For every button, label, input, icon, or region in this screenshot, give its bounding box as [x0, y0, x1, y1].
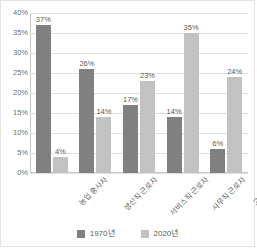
x-axis: 농업 종사자생산직 근로자서비스직 근로자사무직 근로자고급 기술자 — [30, 175, 248, 219]
y-axis: 40%35%30%25%20%15%10%5%0% — [1, 13, 28, 173]
bar-value-label: 26% — [79, 59, 94, 68]
bar-column: 14% — [167, 13, 182, 173]
bar-value-label: 23% — [140, 71, 155, 80]
bar-group: 6%24% — [204, 13, 248, 173]
bar-value-label: 24% — [227, 67, 242, 76]
bar-value-label: 37% — [36, 15, 51, 24]
bar-value-label: 14% — [167, 107, 182, 116]
bar-chart: 40%35%30%25%20%15%10%5%0% 37%4%26%14%17%… — [0, 0, 255, 247]
bar[interactable] — [96, 117, 111, 173]
legend-item[interactable]: 1970년 — [77, 229, 115, 238]
bar-value-label: 14% — [96, 107, 111, 116]
bar-column: 26% — [79, 13, 94, 173]
legend-label: 1970년 — [90, 229, 115, 238]
bar-value-label: 17% — [123, 95, 138, 104]
y-axis-tick-label: 25% — [2, 69, 28, 77]
x-axis-tick-label: 생산직 근로자 — [122, 175, 160, 213]
bar-column: 14% — [96, 13, 111, 173]
bar[interactable] — [184, 33, 199, 173]
y-axis-tick-label: 35% — [2, 29, 28, 37]
x-axis-tick-label: 농업 종사자 — [77, 175, 110, 208]
bar-value-label: 35% — [184, 23, 199, 32]
bar[interactable] — [79, 69, 94, 173]
x-axis-tick-label: 고급 기술자 — [251, 175, 257, 208]
bar-group: 26%14% — [74, 13, 118, 173]
bar[interactable] — [123, 105, 138, 173]
x-axis-tick-label: 사무직 근로자 — [210, 175, 248, 213]
bar-group: 17%23% — [117, 13, 161, 173]
y-axis-tick-label: 40% — [2, 9, 28, 17]
bar[interactable] — [227, 77, 242, 173]
bar-column: 6% — [210, 13, 225, 173]
chart-legend: 1970년2020년 — [1, 229, 254, 238]
bar-value-label: 4% — [55, 147, 66, 156]
bar-column: 4% — [53, 13, 68, 173]
y-axis-tick-label: 20% — [2, 89, 28, 97]
bar-column: 23% — [140, 13, 155, 173]
legend-label: 2020년 — [154, 229, 179, 238]
y-axis-tick-label: 15% — [2, 109, 28, 117]
bar[interactable] — [140, 81, 155, 173]
bar-group: 14%35% — [161, 13, 205, 173]
bar[interactable] — [210, 149, 225, 173]
bar-column: 37% — [36, 13, 51, 173]
bar-value-label: 6% — [212, 139, 223, 148]
legend-swatch-icon — [77, 230, 85, 238]
y-axis-tick-label: 5% — [2, 149, 28, 157]
bar-column: 24% — [227, 13, 242, 173]
bars-layer: 37%4%26%14%17%23%14%35%6%24% — [30, 13, 248, 173]
bar-column: 35% — [184, 13, 199, 173]
bar-group: 37%4% — [30, 13, 74, 173]
legend-item[interactable]: 2020년 — [141, 229, 179, 238]
bar[interactable] — [36, 25, 51, 173]
legend-swatch-icon — [141, 230, 149, 238]
x-axis-tick-label: 서비스직 근로자 — [168, 175, 210, 217]
bar[interactable] — [167, 117, 182, 173]
y-axis-tick-label: 0% — [2, 169, 28, 177]
y-axis-tick-label: 10% — [2, 129, 28, 137]
y-axis-tick-label: 30% — [2, 49, 28, 57]
bar[interactable] — [53, 157, 68, 173]
gridline — [30, 173, 248, 174]
bar-column: 17% — [123, 13, 138, 173]
